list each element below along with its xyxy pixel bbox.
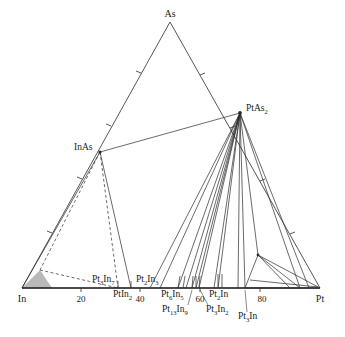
tick-left-4 bbox=[136, 71, 141, 73]
pt3in7-s2: 7 bbox=[111, 279, 115, 286]
tick-left-2 bbox=[77, 177, 82, 179]
tick-label-60: 60 bbox=[196, 294, 206, 304]
compound-label-pt3in2: Pt3In2 bbox=[206, 304, 228, 316]
tie-ptas2-f bbox=[240, 113, 258, 255]
tie-ptas2-pt6in5 bbox=[178, 113, 240, 288]
tick-right-4 bbox=[290, 232, 295, 234]
vertex-label-as: As bbox=[164, 8, 175, 19]
compound-label-pt3in7: Pt3In7 bbox=[92, 274, 115, 286]
compound-label-ptin2: PtIn2 bbox=[113, 289, 132, 301]
pt2in-mid: In bbox=[220, 289, 228, 299]
ternary-diagram-root: In Pt As InAs PtAs2 20 40 60 80 Pt3In7 P… bbox=[0, 0, 345, 337]
compound-label-pt13in9: Pt13In9 bbox=[162, 304, 188, 316]
tie-inas-ptin2 bbox=[100, 152, 131, 288]
tie-inas-ptas2 bbox=[100, 113, 240, 152]
tick-label-20: 20 bbox=[77, 294, 87, 304]
tie-ptas2-a bbox=[160, 113, 240, 288]
leader-pt3in bbox=[245, 290, 247, 312]
node-ptas2 bbox=[238, 111, 242, 115]
phase-field-strips bbox=[118, 274, 222, 288]
tie-pt3in-node bbox=[245, 255, 258, 288]
phase-label-ptas2-sub: 2 bbox=[264, 108, 267, 115]
tie-ptas2-pt2in bbox=[218, 113, 240, 288]
phase-label-inas: InAs bbox=[74, 142, 93, 152]
vertex-label-pt: Pt bbox=[316, 293, 325, 304]
node-inas bbox=[98, 150, 101, 153]
metastable-dashed-lines bbox=[40, 152, 118, 288]
pt6in5-s2: 5 bbox=[180, 294, 184, 301]
tick-left-1 bbox=[47, 231, 52, 233]
tie-lines-pt-rich bbox=[245, 255, 320, 288]
leader-pt13in9 bbox=[188, 290, 192, 305]
tie-node-pt-c bbox=[258, 255, 290, 288]
tie-inas-in bbox=[22, 152, 100, 288]
compound-label-pt2in: Pt2In bbox=[209, 289, 228, 301]
tie-lines-inas bbox=[22, 113, 240, 288]
tick-right-1 bbox=[200, 73, 205, 75]
tie-ptas2-b bbox=[186, 113, 240, 288]
tie-ptas2-pt2in3 bbox=[150, 113, 240, 288]
pt2in3-s2: 3 bbox=[155, 279, 159, 286]
dash-inas-corner bbox=[40, 152, 100, 270]
tie-ptas2-pt3in bbox=[240, 113, 245, 288]
phase-diagram-svg: In Pt As InAs PtAs2 20 40 60 80 Pt3In7 P… bbox=[0, 0, 345, 337]
tick-label-40: 40 bbox=[136, 294, 146, 304]
tie-ptas2-e bbox=[238, 113, 240, 288]
vertex-label-in: In bbox=[18, 293, 26, 304]
tie-ptas2-pt3in2 bbox=[199, 113, 240, 288]
pt3in-mid: In bbox=[249, 311, 257, 321]
node-pt-rich bbox=[257, 254, 260, 257]
pt13in9-s2: 9 bbox=[184, 309, 188, 316]
tie-ptas2-pt13in9 bbox=[192, 113, 240, 288]
edge-in-as bbox=[22, 22, 170, 288]
tie-ptas2-h bbox=[240, 113, 309, 288]
compound-label-pt2in3: Pt2In3 bbox=[136, 274, 159, 286]
pt3in2-s2: 2 bbox=[225, 309, 228, 316]
shaded-liquid-field bbox=[22, 270, 52, 288]
phase-label-ptas2-base: PtAs bbox=[246, 103, 265, 113]
strip-pt3in2 bbox=[199, 276, 200, 288]
strip-pt6in5b bbox=[183, 276, 185, 288]
tie-lines-ptas2-fan bbox=[150, 113, 309, 288]
ptin2-s2: 2 bbox=[129, 294, 132, 301]
tick-left-3 bbox=[106, 124, 111, 126]
phase-label-ptas2: PtAs2 bbox=[246, 103, 268, 115]
tick-label-80: 80 bbox=[258, 294, 268, 304]
triangle-outline bbox=[22, 22, 320, 288]
compound-label-pt6in5: Pt6In5 bbox=[161, 289, 184, 301]
compound-label-pt3in: Pt3In bbox=[238, 311, 257, 323]
tie-pt-rich-a bbox=[250, 280, 318, 287]
